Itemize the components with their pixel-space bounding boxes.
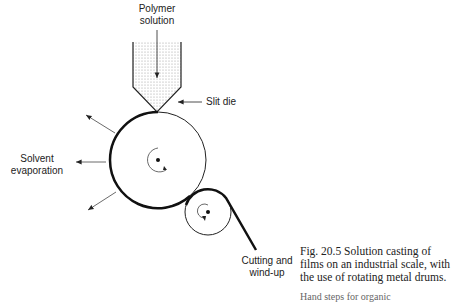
- large-drum: [110, 112, 206, 208]
- label-cutting-windup: Cutting and wind-up: [232, 255, 302, 279]
- drum-axle-icon: [156, 158, 160, 162]
- drum-axle-icon: [206, 210, 210, 214]
- evaporation-arrow: [88, 192, 116, 210]
- label-line: wind-up: [232, 267, 302, 279]
- label-line: evaporation: [4, 165, 70, 177]
- caption-line: Fig. 20.5 Solution casting of: [300, 245, 472, 258]
- label-slit-die: Slit die: [206, 96, 236, 108]
- label-line: solution: [122, 15, 192, 27]
- label-line: Solvent: [4, 153, 70, 165]
- label-line: Polymer: [122, 3, 192, 15]
- caption-line: the use of rotating metal drums.: [300, 271, 472, 284]
- rotation-arrow-icon: [202, 216, 206, 221]
- small-drum: [185, 189, 256, 250]
- caption-line: films on an industrial scale, with: [300, 258, 472, 271]
- evaporation-arrow: [86, 115, 115, 133]
- label-line: Cutting and: [232, 255, 302, 267]
- footer-partial-text: Hand steps for organic: [300, 291, 391, 302]
- label-solvent-evaporation: Solvent evaporation: [4, 153, 70, 177]
- rotation-arrow-icon: [163, 166, 167, 170]
- figure-caption: Fig. 20.5 Solution casting of films on a…: [300, 245, 472, 284]
- label-polymer-solution: Polymer solution: [122, 3, 192, 27]
